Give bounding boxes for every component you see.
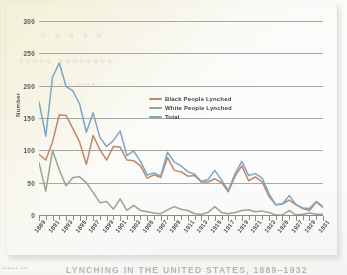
figure-caption: LYNCHING IN THE UNITED STATES, 1889–1932 bbox=[66, 265, 347, 275]
y-tick-label: 150 bbox=[24, 115, 35, 122]
series-line-white-people-lynched bbox=[39, 150, 323, 215]
y-tick-label: 200 bbox=[24, 82, 35, 89]
x-tick-label: 1929 bbox=[304, 219, 317, 234]
legend-label-total: Total bbox=[165, 114, 180, 120]
series-line-black-people-lynched bbox=[39, 115, 323, 211]
legend-swatch-white bbox=[149, 107, 162, 109]
legend-swatch-black bbox=[149, 98, 162, 100]
x-tick-label: 1891 bbox=[47, 219, 60, 234]
x-tick-label: 1913 bbox=[196, 219, 209, 234]
x-tick-label: 1889 bbox=[33, 219, 46, 234]
x-tick-label: 1927 bbox=[290, 219, 303, 234]
y-tick-label: 300 bbox=[24, 18, 35, 25]
x-tick-label: 1925 bbox=[277, 219, 290, 234]
x-tick-label: 1903 bbox=[128, 219, 141, 234]
y-axis-title: Number bbox=[15, 93, 21, 117]
x-tick-label: 1919 bbox=[236, 219, 249, 234]
legend-swatch-total bbox=[149, 116, 162, 118]
y-tick-label: 50 bbox=[27, 179, 35, 186]
legend-label-white: White People Lynched bbox=[165, 105, 232, 111]
x-tick-label: 1907 bbox=[155, 219, 168, 234]
chart-legend: Black People LynchedWhite People Lynched… bbox=[149, 95, 249, 122]
x-tick-label: 1931 bbox=[317, 219, 330, 234]
page-margin-caption: •••••• ••• bbox=[2, 265, 58, 271]
x-tick-label: 1893 bbox=[60, 219, 73, 234]
x-tick-label: 1921 bbox=[250, 219, 263, 234]
y-tick-label: 250 bbox=[24, 50, 35, 57]
x-tick-label: 1895 bbox=[74, 219, 87, 234]
legend-item-black: Black People Lynched bbox=[149, 95, 249, 103]
legend-item-white: White People Lynched bbox=[149, 104, 249, 112]
y-tick-label: 100 bbox=[24, 147, 35, 154]
chart-card: Number 050100150200250300 Black People L… bbox=[7, 5, 338, 256]
chart-inner-surface: Number 050100150200250300 Black People L… bbox=[7, 5, 337, 255]
x-axis-labels: 1889189118931895189718991901190319051907… bbox=[39, 219, 323, 259]
x-tick-label: 1911 bbox=[182, 219, 195, 234]
x-tick-label: 1923 bbox=[263, 219, 276, 234]
legend-label-black: Black People Lynched bbox=[165, 96, 231, 102]
x-tick-label: 1901 bbox=[114, 219, 127, 234]
x-tick-label: 1897 bbox=[87, 219, 100, 234]
x-tick-label: 1909 bbox=[169, 219, 182, 234]
legend-item-total: Total bbox=[149, 113, 249, 121]
x-tick-label: 1899 bbox=[101, 219, 114, 234]
x-tick-label: 1905 bbox=[141, 219, 154, 234]
x-tick-label: 1917 bbox=[223, 219, 236, 234]
y-tick-label: 0 bbox=[31, 212, 35, 219]
series-line-total bbox=[39, 63, 323, 209]
x-tick-label: 1915 bbox=[209, 219, 222, 234]
